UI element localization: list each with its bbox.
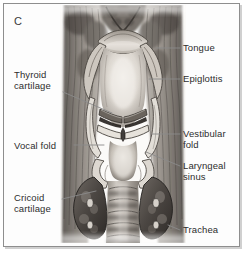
label-vestibular-fold: Vestibular fold <box>183 128 226 150</box>
label-epiglottis: Epiglottis <box>183 73 223 84</box>
label-vocal-fold: Vocal fold <box>14 140 56 151</box>
label-tongue: Tongue <box>183 42 215 53</box>
label-laryngeal-sinus: Laryngeal sinus <box>183 160 226 182</box>
label-thyroid-cartilage: Thyroid cartilage <box>14 69 51 91</box>
label-cricoid-cartilage: Cricoid cartilage <box>14 192 51 214</box>
label-trachea: Trachea <box>183 224 218 235</box>
panel-letter: C <box>14 15 22 27</box>
anatomy-figure: C Thyroid cartilage Vocal fold Cricoid c… <box>0 0 247 255</box>
larynx-illustration <box>60 5 186 243</box>
